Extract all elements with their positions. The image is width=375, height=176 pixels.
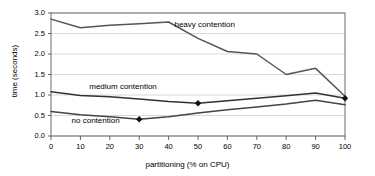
x-axis-title: partitioning (% on CPU) bbox=[0, 160, 375, 169]
x-axis-tick-label: 50 bbox=[183, 142, 213, 151]
y-axis-tick-label: 0.0 bbox=[9, 131, 45, 140]
x-axis-tick-label: 80 bbox=[271, 142, 301, 151]
x-axis-tick-label: 30 bbox=[124, 142, 154, 151]
x-axis-tick-label: 100 bbox=[330, 142, 360, 151]
series-annotation-label: medium contention bbox=[89, 82, 157, 91]
x-axis-tick-label: 10 bbox=[65, 142, 95, 151]
x-axis-tick-label: 70 bbox=[242, 142, 272, 151]
x-axis-tick-label: 60 bbox=[212, 142, 242, 151]
y-axis-title-wrapper: time (seconds) bbox=[3, 21, 21, 121]
chart-figure: 0.00.51.01.52.02.53.0 010203040506070809… bbox=[0, 0, 375, 176]
series-annotation-label: no contention bbox=[72, 116, 120, 125]
x-axis-tick-label: 0 bbox=[36, 142, 66, 151]
y-axis-title: time (seconds) bbox=[10, 45, 19, 97]
series-annotation-label: heavy contention bbox=[174, 20, 235, 29]
x-axis-tick-label: 40 bbox=[154, 142, 184, 151]
y-axis-tick-label: 3.0 bbox=[9, 8, 45, 17]
x-axis-ticks bbox=[51, 136, 345, 140]
x-axis-tick-label: 90 bbox=[301, 142, 331, 151]
x-axis-tick-label: 20 bbox=[95, 142, 125, 151]
